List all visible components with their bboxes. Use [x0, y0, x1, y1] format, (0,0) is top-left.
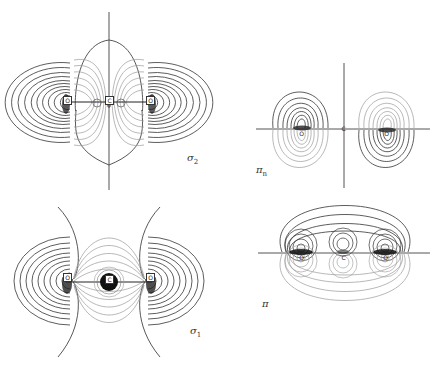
- atom-o-left: O: [63, 273, 72, 282]
- atom-c: C: [105, 96, 114, 105]
- panel-label-pi-n: πn: [256, 164, 267, 178]
- atom-o-left: O: [298, 130, 305, 137]
- atom-o-left: O: [63, 96, 72, 105]
- label-symbol: π: [262, 298, 269, 309]
- panel-pi: O C O π: [230, 190, 441, 369]
- atom-c: C: [105, 275, 114, 284]
- label-subscript: 1: [197, 331, 201, 339]
- panel-label-sigma1: σ1: [190, 325, 201, 339]
- panel-sigma2: O C O σ2: [0, 0, 230, 190]
- atom-o-right: O: [383, 130, 390, 137]
- atom-c: C: [340, 254, 347, 261]
- label-symbol: π: [256, 164, 263, 175]
- atom-o-right: O: [382, 254, 389, 261]
- sigma1-contour-plot: [0, 195, 230, 369]
- pi-contour-plot: [230, 190, 441, 369]
- atom-o-right: O: [146, 96, 155, 105]
- label-symbol: σ: [187, 152, 194, 163]
- atom-c: C: [340, 125, 347, 132]
- atom-o-left: O: [298, 254, 305, 261]
- atom-o-right: O: [146, 273, 155, 282]
- label-subscript: n: [263, 170, 268, 178]
- panel-pi-n: O C O πn: [230, 30, 441, 190]
- panel-label-sigma2: σ2: [187, 152, 198, 166]
- label-symbol: σ: [190, 325, 197, 336]
- panel-sigma1: O C O σ1: [0, 195, 230, 369]
- panel-label-pi: π: [262, 298, 269, 312]
- label-subscript: 2: [194, 158, 198, 166]
